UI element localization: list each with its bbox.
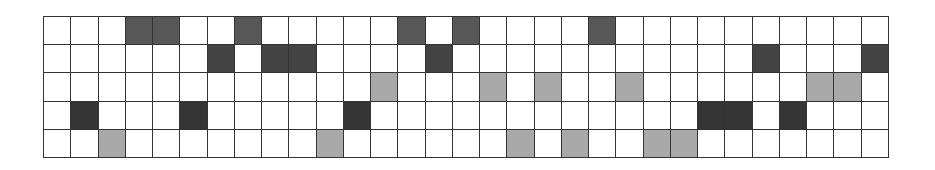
grid-cell [534, 129, 561, 157]
grid-cell [125, 101, 152, 129]
grid-cell [207, 72, 234, 100]
grid-cell [207, 101, 234, 129]
grid-cell [43, 16, 70, 44]
grid-cell [643, 44, 670, 72]
grid-cell [316, 72, 343, 100]
grid-cell [234, 72, 261, 100]
grid-cell [234, 44, 261, 72]
grid-cell [316, 101, 343, 129]
grid-cell [670, 16, 697, 44]
grid-cell [43, 129, 70, 157]
grid-cell [425, 129, 452, 157]
grid-cell [343, 72, 370, 100]
grid-cell [125, 72, 152, 100]
grid-cell [43, 72, 70, 100]
grid-cell [397, 129, 424, 157]
grid-cell [261, 44, 288, 72]
grid-cell [70, 44, 97, 72]
grid-cell [152, 72, 179, 100]
grid-cell [43, 101, 70, 129]
grid-cell [833, 44, 860, 72]
grid-cell [615, 16, 642, 44]
grid-cell [234, 129, 261, 157]
grid-cell [861, 101, 888, 129]
grid-cell [179, 44, 206, 72]
grid-cell [152, 101, 179, 129]
grid-cell [425, 16, 452, 44]
grid-cell [697, 129, 724, 157]
grid-cell [370, 129, 397, 157]
grid-cell [261, 72, 288, 100]
grid-cell [861, 44, 888, 72]
grid-cell [179, 101, 206, 129]
grid-cell [534, 101, 561, 129]
grid-cell [615, 44, 642, 72]
grid-cell [779, 44, 806, 72]
grid-cell [98, 44, 125, 72]
grid-cell [833, 72, 860, 100]
grid-cell [534, 44, 561, 72]
grid-cell [397, 44, 424, 72]
grid-cell [697, 101, 724, 129]
grid-cell [125, 16, 152, 44]
grid-cell [370, 16, 397, 44]
grid-cell [452, 44, 479, 72]
grid-cell [697, 72, 724, 100]
grid-cell [70, 16, 97, 44]
grid-cell [670, 101, 697, 129]
grid-cell [125, 44, 152, 72]
grid-cell [724, 44, 751, 72]
grid-cell [643, 16, 670, 44]
grid-cell [615, 129, 642, 157]
grid-cell [343, 101, 370, 129]
grid-cell [806, 101, 833, 129]
grid-cell [452, 16, 479, 44]
grid-cell [779, 72, 806, 100]
grid-cell [588, 16, 615, 44]
grid-cell [561, 129, 588, 157]
grid-cell [833, 129, 860, 157]
grid-cell [179, 72, 206, 100]
grid-cell [98, 72, 125, 100]
grid-cell [806, 72, 833, 100]
grid-cell [752, 44, 779, 72]
grid-cell [561, 101, 588, 129]
grid-cell [207, 16, 234, 44]
grid-cell [724, 101, 751, 129]
grid-cell [152, 44, 179, 72]
grid-cell [752, 101, 779, 129]
grid-cell [452, 101, 479, 129]
grid-cell [506, 101, 533, 129]
grid-cell [261, 129, 288, 157]
grid-cell [207, 44, 234, 72]
grid-cell [806, 129, 833, 157]
grid-cell [752, 72, 779, 100]
grid-cell [43, 44, 70, 72]
grid-cell [98, 16, 125, 44]
grid-cell [370, 72, 397, 100]
grid-cell [70, 129, 97, 157]
grid-cell [506, 44, 533, 72]
grid-cell [806, 44, 833, 72]
grid-cell [806, 16, 833, 44]
grid-cell [261, 101, 288, 129]
grid-cell [643, 101, 670, 129]
cell-grid [43, 16, 889, 158]
grid-cell [615, 101, 642, 129]
grid-cell [779, 16, 806, 44]
grid-cell [779, 101, 806, 129]
canvas [0, 0, 935, 170]
grid-cell [288, 129, 315, 157]
grid-cell [370, 44, 397, 72]
grid-cell [397, 16, 424, 44]
grid-cell [643, 129, 670, 157]
grid-cell [397, 72, 424, 100]
grid-cell [670, 44, 697, 72]
grid-cell [670, 129, 697, 157]
grid-cell [452, 72, 479, 100]
grid-cell [343, 129, 370, 157]
grid-cell [752, 129, 779, 157]
grid-cell [615, 72, 642, 100]
grid-cell [288, 44, 315, 72]
grid-cell [724, 129, 751, 157]
